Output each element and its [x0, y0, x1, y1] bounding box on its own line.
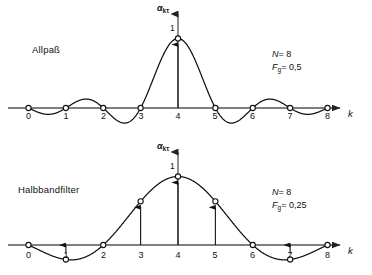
x-tick-label: 4	[171, 111, 185, 121]
sample-point	[26, 105, 31, 110]
x-tick-label: 3	[134, 111, 148, 121]
param-n-value: = 8	[279, 49, 292, 59]
x-tick-label: 8	[321, 111, 335, 121]
sample-point	[63, 105, 68, 110]
x-tick-label: 2	[97, 111, 111, 121]
param-n-halbband: N= 8	[272, 186, 306, 199]
sample-point	[26, 242, 31, 247]
sample-point	[250, 242, 255, 247]
peak-value-label-panel2: 1	[170, 161, 175, 171]
peak-value-label-panel1: 1	[170, 23, 175, 33]
x-tick-label: 5	[208, 111, 222, 121]
x-tick-label: 5	[208, 250, 222, 260]
sample-point	[175, 36, 180, 41]
y-axis-label-panel2: αkτ	[157, 141, 169, 152]
sample-point	[138, 199, 143, 204]
param-f-value: = 0,5	[281, 62, 301, 72]
panel-params-allpass: N= 8 Fg= 0,5	[272, 48, 301, 76]
panel-params-halbbandfilter: N= 8 Fg= 0,25	[272, 186, 306, 214]
sample-point	[325, 105, 330, 110]
panel-label-halbbandfilter: Halbbandfilter	[18, 184, 79, 195]
x-tick-label: 1	[59, 250, 73, 260]
sample-point	[213, 105, 218, 110]
sample-point	[138, 105, 143, 110]
param-f-value: = 0,25	[281, 200, 306, 210]
param-fg-halbband: Fg= 0,25	[272, 199, 306, 215]
x-tick-label: 7	[283, 250, 297, 260]
x-tick-label: 4	[171, 250, 185, 260]
y-axis-label-sub: kτ	[163, 7, 170, 14]
sample-point	[101, 105, 106, 110]
sample-point	[325, 242, 330, 247]
figure-canvas	[0, 0, 372, 275]
x-tick-label: 6	[246, 111, 260, 121]
panel-label-allpass: Allpaß	[32, 44, 60, 55]
x-tick-label: 1	[59, 111, 73, 121]
x-tick-label: 8	[321, 250, 335, 260]
y-axis-label-panel1: αkτ	[157, 3, 169, 14]
sample-point	[213, 199, 218, 204]
x-tick-label: 6	[246, 250, 260, 260]
x-tick-label: 7	[283, 111, 297, 121]
figure-root: Allpaß N= 8 Fg= 0,5 αkτ 1 k 0 1 2 3 4 5 …	[0, 0, 372, 275]
x-axis-label-panel2: k	[348, 245, 353, 256]
param-fg-allpass: Fg= 0,5	[272, 61, 301, 77]
sample-point	[101, 242, 106, 247]
param-n-allpass: N= 8	[272, 48, 301, 61]
x-tick-label: 0	[22, 250, 36, 260]
x-tick-label: 0	[22, 111, 36, 121]
x-axis-label-panel1: k	[348, 108, 353, 119]
y-axis-label-sub: kτ	[163, 145, 170, 152]
sample-point	[250, 105, 255, 110]
sample-point	[175, 174, 180, 179]
sample-point	[288, 105, 293, 110]
x-tick-label: 2	[97, 250, 111, 260]
x-tick-label: 3	[134, 250, 148, 260]
param-n-value: = 8	[279, 187, 292, 197]
